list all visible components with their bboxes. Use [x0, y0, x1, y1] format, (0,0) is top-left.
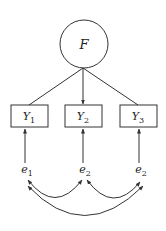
- error-e3: e2: [135, 163, 147, 178]
- error-e2: e2: [79, 163, 91, 178]
- svg-text:Y1: Y1: [23, 110, 35, 125]
- loading-path-y3: [83, 68, 138, 105]
- indicator-y1: Y1: [11, 105, 48, 127]
- covariance-e1-e2: [28, 180, 82, 198]
- path-diagram: F Y1 Y2 Y3 e1 e2 e2: [0, 0, 166, 231]
- factor-label: F: [78, 37, 89, 52]
- indicator-y3: Y3: [120, 105, 157, 127]
- error-e1: e1: [21, 163, 33, 178]
- svg-text:Y3: Y3: [132, 110, 144, 125]
- factor-node: F: [60, 20, 108, 68]
- indicator-y2: Y2: [65, 105, 102, 127]
- svg-text:Y2: Y2: [77, 110, 89, 125]
- indicator-subscript: 1: [30, 116, 35, 125]
- loading-path-y1: [29, 68, 83, 105]
- covariance-e1-e3: [28, 186, 143, 216]
- indicator-subscript: 2: [84, 116, 89, 125]
- indicator-subscript: 3: [139, 116, 144, 125]
